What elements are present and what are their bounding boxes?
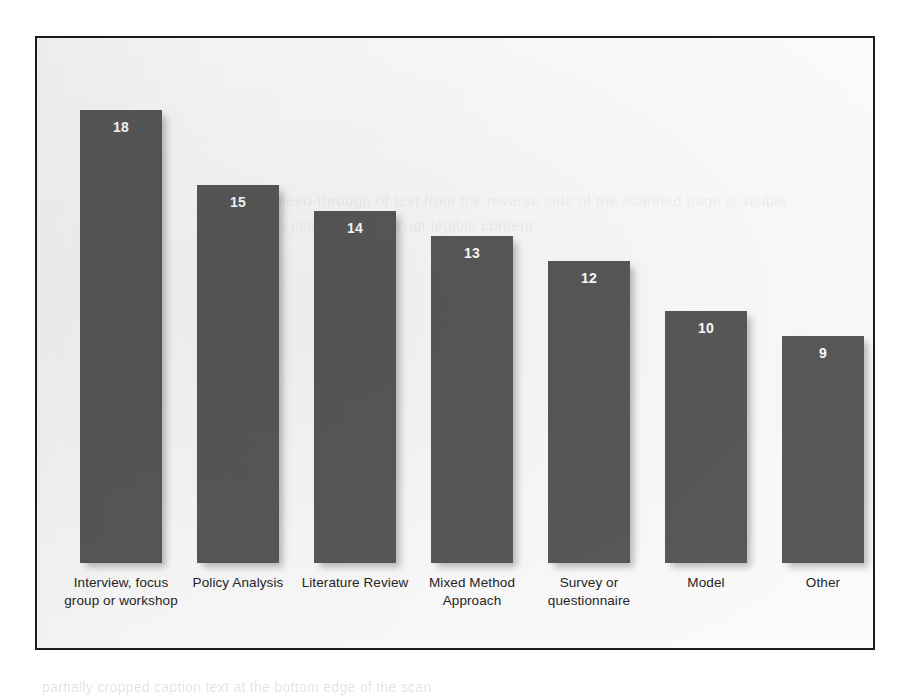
bar-group: 15Policy Analysis [197, 185, 279, 563]
bar[interactable]: 13 [431, 236, 513, 563]
bar-value-label: 9 [782, 345, 864, 361]
bar-group: 18Interview, focus group or workshop [80, 110, 162, 563]
bar-value-label: 10 [665, 320, 747, 336]
bar[interactable]: 9 [782, 336, 864, 563]
bar-chart-plot-area: 18Interview, focus group or workshop15Po… [37, 38, 873, 648]
category-axis-label: Survey or questionnaire [531, 574, 647, 610]
bar-group: 9Other [782, 336, 864, 563]
bar-value-label: 12 [548, 270, 630, 286]
caption-remnant: partially cropped caption text at the bo… [42, 679, 472, 695]
bar-value-label: 18 [80, 119, 162, 135]
bar-value-label: 15 [197, 194, 279, 210]
category-axis-label: Literature Review [297, 574, 413, 592]
figure-frame: the faint bleed-through of text from the… [35, 36, 875, 650]
category-axis-label: Mixed Method Approach [414, 574, 530, 610]
bar-group: 10Model [665, 311, 747, 563]
category-axis-label: Policy Analysis [180, 574, 296, 592]
bar-group: 12Survey or questionnaire [548, 261, 630, 563]
category-axis-label: Model [648, 574, 764, 592]
bar[interactable]: 14 [314, 211, 396, 563]
bar[interactable]: 12 [548, 261, 630, 563]
bar[interactable]: 15 [197, 185, 279, 563]
bar-value-label: 14 [314, 220, 396, 236]
bar[interactable]: 18 [80, 110, 162, 563]
bar-value-label: 13 [431, 245, 513, 261]
category-axis-label: Other [765, 574, 875, 592]
bar[interactable]: 10 [665, 311, 747, 563]
bar-group: 14Literature Review [314, 211, 396, 563]
bar-group: 13Mixed Method Approach [431, 236, 513, 563]
category-axis-label: Interview, focus group or workshop [63, 574, 179, 610]
